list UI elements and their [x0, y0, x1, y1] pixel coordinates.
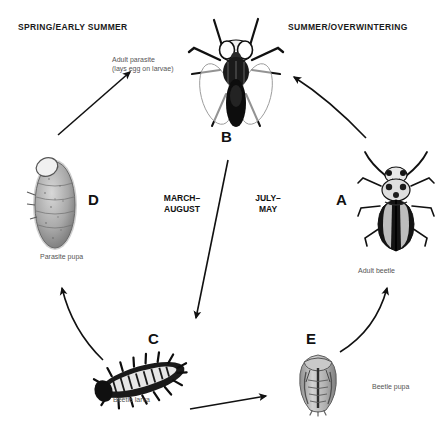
stage-letter-c: C	[148, 330, 159, 347]
arrow-beetle-larva-to-parasite-pupa	[62, 288, 103, 360]
adult-parasite-fly-icon	[186, 8, 286, 133]
period-label-right: JULY– MAY	[243, 193, 293, 215]
beetle-pupa-icon	[288, 352, 348, 416]
arrow-parasite-pupa-to-adult-parasite	[58, 72, 130, 135]
arrow-beetle-pupa-to-adult-beetle	[340, 288, 387, 352]
season-header-right: SUMMER/OVERWINTERING	[288, 22, 408, 32]
caption-beetle-pupa: Beetle pupa	[372, 382, 409, 391]
arrow-adult-parasite-to-beetle-larva	[196, 160, 228, 318]
stage-letter-a: A	[336, 191, 347, 208]
caption-beetle-larva: Beetle larva	[113, 395, 150, 404]
period-label-left: MARCH– AUGUST	[152, 193, 212, 215]
caption-adult-parasite: Adult parasite (lays egg on larvae)	[112, 55, 197, 73]
stage-letter-e: E	[306, 330, 316, 347]
arrow-adult-beetle-to-adult-parasite	[294, 77, 366, 138]
parasite-pupa-icon	[25, 155, 85, 253]
caption-parasite-pupa: Parasite pupa	[40, 252, 83, 261]
adult-beetle-icon	[355, 150, 437, 258]
season-header-left: SPRING/EARLY SUMMER	[18, 22, 128, 32]
stage-letter-d: D	[88, 191, 99, 208]
life-cycle-diagram: SPRING/EARLY SUMMER SUMMER/OVERWINTERING	[0, 0, 447, 445]
stage-letter-b: B	[221, 128, 232, 145]
caption-adult-beetle: Adult beetle	[358, 266, 395, 275]
arrow-beetle-larva-to-beetle-pupa	[190, 396, 266, 409]
